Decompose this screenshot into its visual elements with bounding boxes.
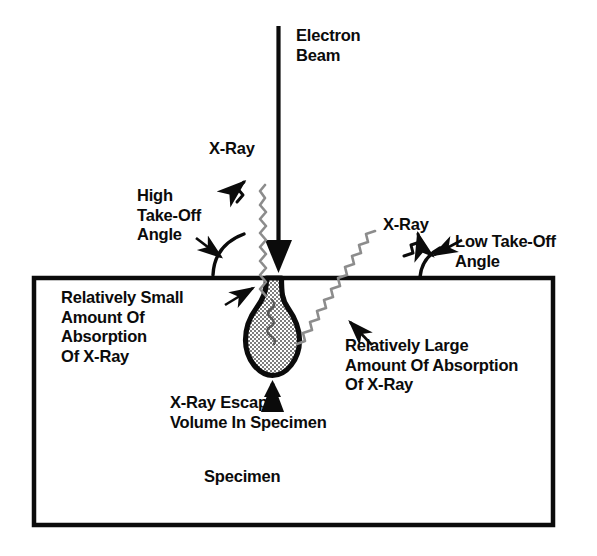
label-relatively-small-absorption: Relatively Small Amount Of Absorption Of… — [61, 288, 183, 366]
x-ray-low-take-off-path — [297, 231, 420, 344]
diagram-canvas — [0, 0, 597, 556]
label-electron-beam: Electron Beam — [296, 26, 360, 65]
small-absorption-pointer-arrow — [225, 288, 253, 305]
electron-beam-arrow — [265, 26, 292, 273]
label-specimen: Specimen — [204, 467, 280, 487]
label-low-take-off-angle: Low Take-Off Angle — [455, 232, 556, 271]
x-ray-escape-volume — [246, 278, 300, 376]
xray-take-off-angle-diagram: Electron Beam X-Ray High Take-Off Angle … — [0, 0, 597, 556]
label-high-take-off-angle: High Take-Off Angle — [137, 186, 201, 245]
label-relatively-large-absorption: Relatively Large Amount Of Absorption Of… — [345, 336, 518, 395]
label-xray-low-take-off: X-Ray — [383, 215, 429, 235]
label-xray-escape-volume: X-Ray Escape Volume In Specimen — [170, 393, 327, 432]
label-xray-high-take-off: X-Ray — [209, 139, 255, 159]
